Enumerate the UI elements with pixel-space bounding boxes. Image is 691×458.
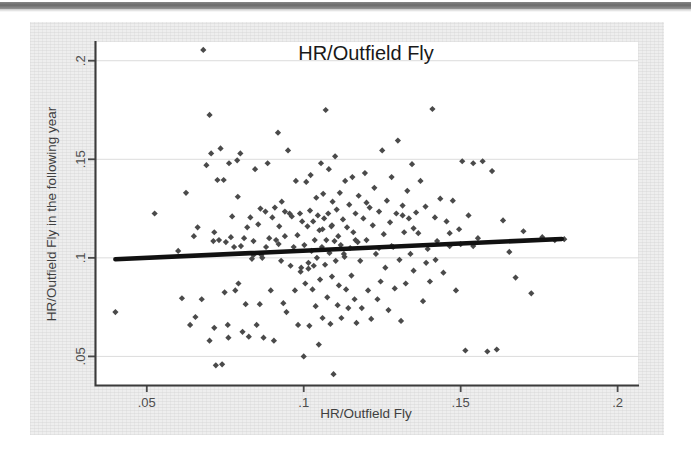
y-axis-ticks: .05.1.15.2 [74, 55, 96, 365]
x-tick-label: .1 [298, 395, 309, 410]
x-axis-title: HR/Outfield Fly [320, 406, 412, 421]
y-tick-label: .15 [74, 150, 89, 168]
chart-svg: .05.1.15.2 .05.1.15.2 HR/Outfield Fly HR… [0, 0, 691, 458]
chart-title: HR/Outfield Fly [298, 42, 434, 64]
plot-area-background [95, 42, 638, 385]
scanned-page: .05.1.15.2 .05.1.15.2 HR/Outfield Fly HR… [0, 0, 691, 458]
scatter-plot: .05.1.15.2 .05.1.15.2 HR/Outfield Fly HR… [0, 0, 691, 458]
x-tick-label: .05 [138, 395, 156, 410]
y-tick-label: .2 [74, 55, 89, 66]
y-tick-label: .05 [74, 347, 89, 365]
x-tick-label: .2 [612, 395, 623, 410]
y-axis-title: HR/Outfield Fly in the following year [44, 106, 59, 321]
x-tick-label: .15 [452, 395, 470, 410]
y-tick-label: .1 [74, 252, 89, 263]
